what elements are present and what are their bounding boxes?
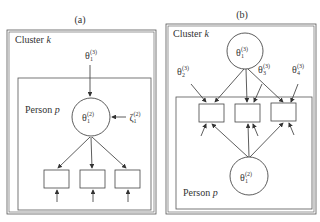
- item-box-2: [235, 104, 260, 122]
- latent-circle-theta-1-2: [72, 98, 110, 136]
- item-box-1: [199, 104, 224, 122]
- arrow-theta12-to-item-1: [212, 124, 248, 157]
- theta-2-3-label: θ2(3): [177, 65, 189, 78]
- arrow-to-item-3: [92, 137, 126, 168]
- theta-1-3-label: θ1(3): [85, 49, 97, 62]
- panel-a: (a) Cluster k θ1(3) Person p θ1(2) ζ1(2): [7, 14, 156, 214]
- person-box: [18, 78, 151, 210]
- cluster-label: Cluster k: [15, 34, 51, 45]
- arrow-theta2-to-item-1: [191, 84, 206, 102]
- arrow-to-item-1: [58, 137, 90, 168]
- error-arrow-1: [201, 124, 206, 136]
- error-arrow-3: [289, 123, 294, 135]
- item-box-1: [44, 170, 69, 188]
- diagram-canvas: (a) Cluster k θ1(3) Person p θ1(2) ζ1(2)…: [0, 0, 320, 222]
- item-box-2: [80, 170, 105, 188]
- arrow-theta4-to-item-3: [291, 84, 298, 102]
- theta-4-3-label: θ4(3): [292, 63, 304, 76]
- arrow-theta3-to-item-2: [254, 84, 262, 102]
- arrow-to-item-2: [91, 137, 92, 168]
- error-arrow-2: [253, 124, 258, 136]
- panel-a-label: (a): [74, 14, 85, 26]
- panel-b-label: (b): [236, 9, 248, 21]
- cluster-label: Cluster k: [173, 28, 209, 39]
- item-box-3: [271, 103, 296, 121]
- item-box-3: [115, 170, 140, 188]
- person-label: Person p: [25, 104, 60, 115]
- person-label: Person p: [183, 187, 218, 198]
- arrow-theta12-to-item-2: [248, 124, 249, 157]
- panel-b: (b) Cluster k θ1(3) θ2(3) θ3(3) θ4(3) θ1…: [166, 9, 316, 214]
- theta-3-3-label: θ3(3): [258, 63, 270, 76]
- zeta-1-2-label: ζ1(2): [129, 111, 140, 124]
